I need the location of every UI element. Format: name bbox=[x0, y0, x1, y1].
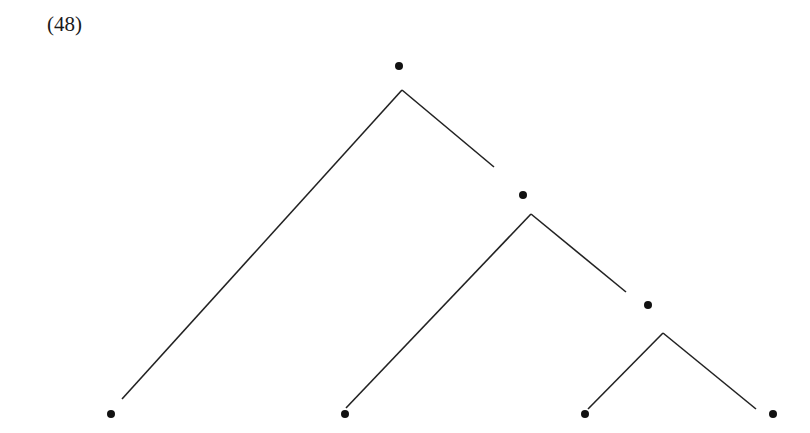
branch-line bbox=[402, 90, 494, 167]
leaf1-node-dot bbox=[107, 410, 115, 418]
leaf4-node-dot bbox=[769, 410, 777, 418]
node2-node-dot bbox=[519, 191, 527, 199]
branch-line bbox=[346, 214, 531, 408]
branch-line bbox=[588, 333, 663, 409]
root-node-dot bbox=[395, 62, 403, 70]
leaf3-node-dot bbox=[581, 410, 589, 418]
branch-line bbox=[531, 214, 626, 292]
branch-line bbox=[122, 90, 402, 399]
node3-node-dot bbox=[644, 301, 652, 309]
leaf2-node-dot bbox=[341, 410, 349, 418]
branch-line bbox=[663, 333, 756, 409]
tree-diagram bbox=[0, 0, 810, 433]
